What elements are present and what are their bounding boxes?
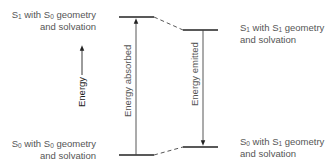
- label-s1-s1-geometry: S1 with S1 geometry and solvation: [240, 22, 324, 45]
- label-s1-s0-geometry: S1 with S0 geometry and solvation: [12, 9, 96, 32]
- energy-absorbed-label: Energy absorbed: [122, 45, 133, 117]
- label-s0-s1-geometry: S0 with S1 geometry and solvation: [240, 136, 324, 159]
- energy-axis-label: Energy: [76, 77, 87, 107]
- relaxation-ground-dashed: [154, 147, 183, 155]
- label-s0-s0-geometry: S0 with S0 geometry and solvation: [12, 138, 96, 161]
- relaxation-excited-dashed: [154, 17, 183, 30]
- energy-emitted-label: Energy emitted: [189, 42, 200, 106]
